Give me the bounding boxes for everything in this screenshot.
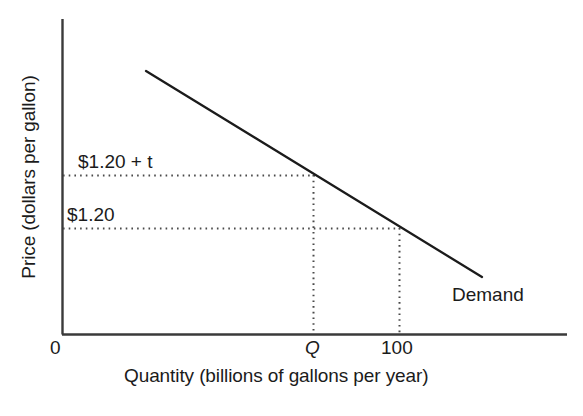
x-tick-label-q: Q — [305, 338, 320, 357]
demand-curve-figure: Price (dollars per gallon) Quantity (bil… — [0, 0, 583, 416]
x-tick-label-100: 100 — [381, 338, 413, 357]
x-axis-title: Quantity (billions of gallons per year) — [124, 366, 428, 385]
y-axis-title: Price (dollars per gallon) — [19, 17, 45, 337]
price-label: $1.20 — [67, 205, 115, 224]
origin-label: 0 — [50, 338, 61, 357]
demand-curve-label: Demand — [452, 285, 524, 304]
demand-curve-line — [146, 71, 482, 277]
price-with-tax-label: $1.20 + t — [78, 152, 152, 171]
